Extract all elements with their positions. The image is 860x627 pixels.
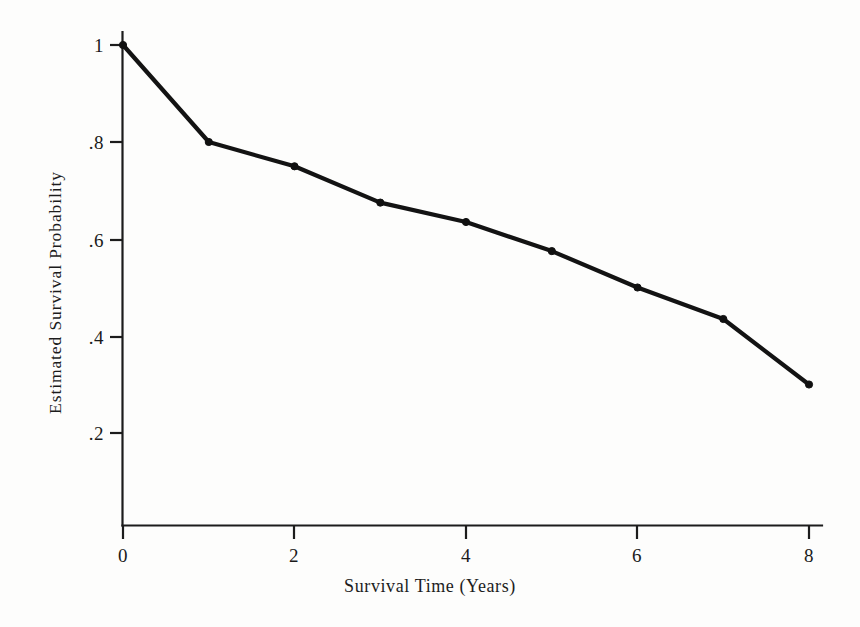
x-tick-label-4: 4: [461, 545, 471, 566]
y-tick-label-02: .2: [89, 423, 104, 444]
x-tick-label-2: 2: [289, 545, 299, 566]
data-point: [119, 41, 126, 48]
data-point: [805, 381, 812, 388]
x-tick-marks: [123, 526, 809, 539]
y-tick-label-04: .4: [89, 327, 104, 348]
x-axis-title: Survival Time (Years): [0, 576, 860, 597]
survival-curve-line: [123, 45, 809, 385]
chart-page: 1 .8 .6 .4 .2 0 2 4 6 8 Survival Time (Y…: [0, 0, 860, 627]
survival-curve-plot: 1 .8 .6 .4 .2 0 2 4 6 8: [0, 0, 860, 627]
data-point: [377, 199, 384, 206]
x-tick-label-8: 8: [804, 545, 814, 566]
y-tick-label-1: 1: [94, 35, 104, 56]
data-point: [205, 138, 212, 145]
y-tick-label-08: .8: [89, 132, 104, 153]
y-tick-label-06: .6: [89, 230, 104, 251]
y-axis-title: Estimated Survival Probability: [45, 143, 66, 443]
x-tick-label-0: 0: [118, 545, 128, 566]
y-tick-marks: [110, 45, 123, 433]
data-point: [720, 315, 727, 322]
x-tick-label-6: 6: [632, 545, 642, 566]
data-point: [462, 218, 469, 225]
data-point: [548, 248, 555, 255]
data-point: [634, 284, 641, 291]
data-point: [291, 163, 298, 170]
survival-curve-markers: [119, 41, 812, 388]
